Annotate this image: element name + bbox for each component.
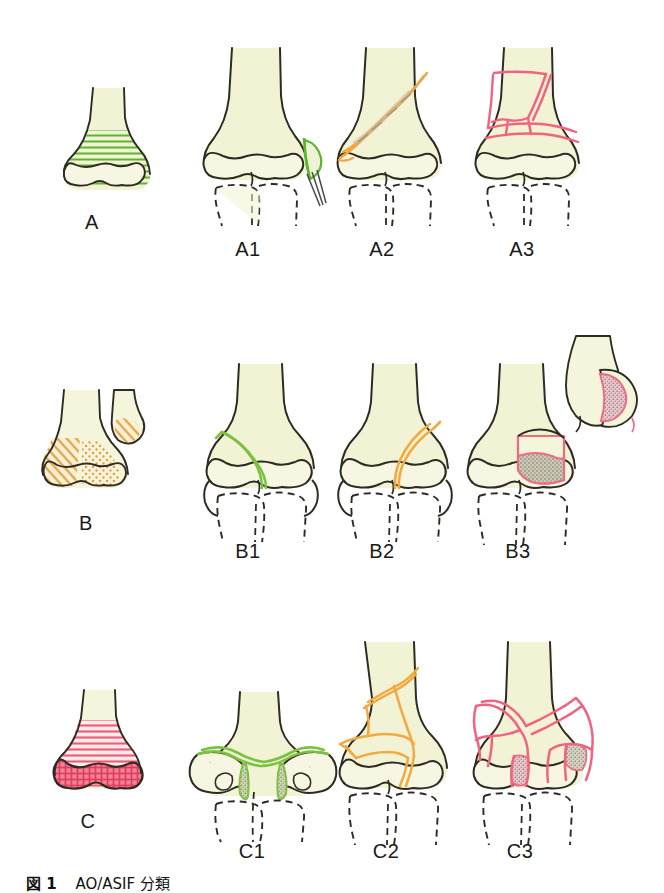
articular-block-c2 — [340, 760, 443, 790]
forearm-outline-b3 — [478, 493, 567, 546]
condyle-block-a — [64, 163, 145, 186]
forearm-outline-c2 — [349, 793, 438, 846]
forearm-outline-a2 — [349, 184, 431, 226]
subtype-figure-a2 — [330, 46, 460, 226]
subtype-figure-c2 — [322, 640, 472, 845]
type-label-c: C — [68, 810, 108, 833]
subtype-figure-a3 — [462, 46, 602, 226]
coronal-fragment-b3 — [518, 430, 564, 484]
bone-shape-c1 — [190, 692, 337, 796]
forearm-outline-c1 — [215, 792, 304, 842]
subtype-label-c1: C1 — [222, 840, 282, 863]
subtype-label-b2: B2 — [352, 540, 412, 563]
type-figure-b — [42, 388, 182, 508]
subtype-label-b1: B1 — [218, 540, 278, 563]
subtype-figure-a1 — [196, 46, 326, 226]
subtype-label-c2: C2 — [356, 840, 416, 863]
forearm-outline-b1 — [204, 480, 318, 542]
detached-fragment-b — [112, 390, 145, 444]
bone-shape-a1 — [204, 48, 308, 186]
subtype-figure-b3 — [460, 330, 664, 545]
forearm-outline-a1 — [215, 184, 297, 226]
forearm-outline-a3 — [487, 184, 569, 226]
figure-caption-number: 図 1 — [26, 875, 57, 893]
subtype-label-a3: A3 — [492, 238, 552, 261]
subtype-label-c3: C3 — [490, 840, 550, 863]
subtype-label-a2: A2 — [352, 238, 412, 261]
type-label-b: B — [66, 512, 106, 535]
subtype-figure-b2 — [330, 362, 470, 542]
condyle-block-a2 — [338, 153, 438, 179]
inset-lateral-view-b3 — [566, 336, 637, 432]
figure-caption: 図 1 AO/ASIF 分類 — [26, 872, 170, 893]
bone-shape-a2 — [338, 48, 442, 186]
type-label-a: A — [72, 211, 112, 234]
subtype-figure-b1 — [196, 362, 336, 542]
subtype-figure-c3 — [458, 640, 618, 845]
subtype-label-b3: B3 — [488, 540, 548, 563]
type-figure-c — [46, 688, 176, 808]
bone-shape-a — [64, 88, 150, 190]
subtype-figure-c1 — [188, 692, 338, 842]
bone-shape-c2 — [340, 642, 447, 794]
condyle-block-a3 — [476, 153, 576, 179]
figure-caption-text: AO/ASIF 分類 — [75, 875, 169, 893]
type-figure-a — [52, 86, 172, 206]
condyle-block-a1 — [204, 153, 304, 179]
bone-shape-c — [54, 690, 143, 789]
subtype-label-a1: A1 — [218, 238, 278, 261]
forearm-outline-c3 — [483, 793, 572, 846]
